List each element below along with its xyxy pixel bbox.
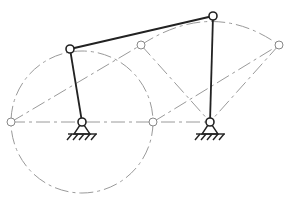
construction-line-2 xyxy=(141,45,210,122)
coupler-arc xyxy=(141,22,279,46)
construction-line-3 xyxy=(153,45,279,122)
joint-a xyxy=(66,45,74,53)
linkage-diagram xyxy=(0,0,288,200)
joint-a-right xyxy=(149,118,157,126)
joint-a-left xyxy=(7,118,15,126)
construction-line-4 xyxy=(210,45,279,122)
joint-c2 xyxy=(275,41,283,49)
joint-c1 xyxy=(137,41,145,49)
joint-b xyxy=(209,12,217,20)
joint-o2 xyxy=(206,118,214,126)
joint-o1 xyxy=(78,118,86,126)
rocker-link xyxy=(210,16,213,122)
